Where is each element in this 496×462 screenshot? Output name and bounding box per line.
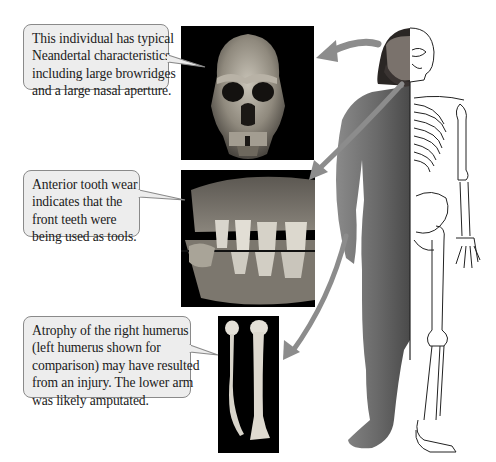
callout-pointers bbox=[139, 55, 218, 355]
arrow-to-skull-icon bbox=[330, 42, 378, 52]
skeleton bbox=[410, 28, 480, 452]
body-illustration bbox=[0, 0, 496, 462]
arrow-to-humerus-icon bbox=[292, 236, 346, 352]
